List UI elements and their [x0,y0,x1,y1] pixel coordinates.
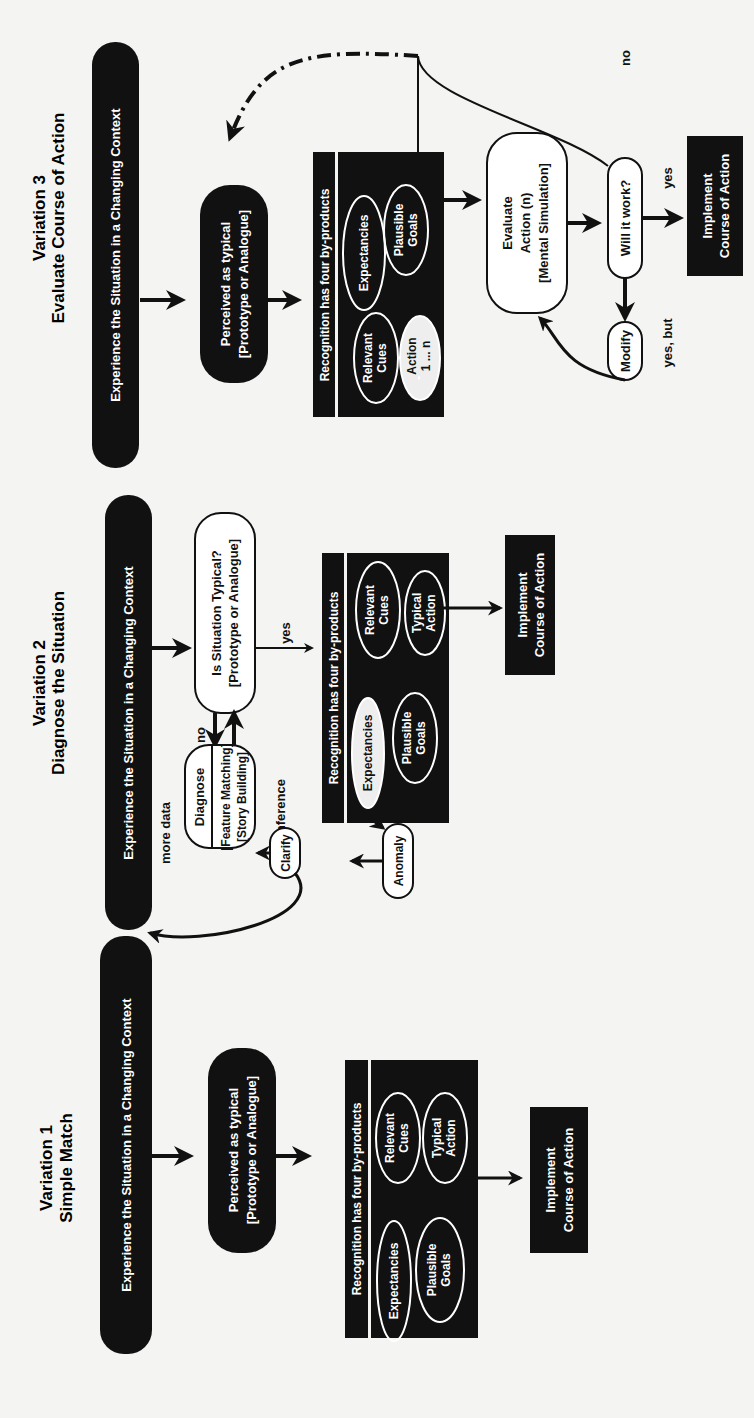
v1-recognition-header: Recognition has four by-products [350,1102,364,1295]
v1-perceived-line2: [Prototype or Analogue] [244,1076,259,1224]
v3-action-line2: 1 ... n [419,341,433,372]
v1-typical-action-line2: Action [444,1119,458,1156]
v2-diagnose-title: Diagnose [192,768,207,827]
variation-3: Variation 3 Evaluate Course of Action Ex… [30,42,743,468]
v1-implement-line2: Course of Action [561,1128,576,1232]
v2-typical-action-line1: Typical [410,593,424,633]
v2-yes-label: yes [278,622,293,644]
v1-relevant-cues-line1: Relevant [383,1113,397,1163]
v2-plausible-goals-line1: Plausible [400,711,414,764]
v2-plausible-goals-line2: Goals [414,721,428,755]
v2-decision-box [195,513,255,713]
v2-implement-box [505,535,555,675]
v3-evaluate-line3: [Mental Simulation] [536,163,551,283]
v3-implement-box [687,136,743,276]
v3-perceived-line2: [Prototype or Analogue] [236,210,251,358]
v3-perceived-pill [200,185,268,383]
v2-diagnose-line1: [Feature Matching] [219,743,233,850]
v2-no-label: no [193,727,208,743]
v3-no-label: no [618,50,633,66]
v2-implement-line1: Implement [515,572,530,638]
v3-perceived-line1: Perceived as typical [218,222,233,346]
variation-1: Variation 1 Simple Match Experience the … [37,936,588,1354]
v2-relevant-cues-line2: Cues [377,595,391,625]
v3-experience-label: Experience the Situation in a Changing C… [108,108,123,402]
v1-implement-line1: Implement [543,1147,558,1213]
v3-action-line1: Action [405,337,419,374]
v2-relevant-cues-line1: Relevant [363,585,377,635]
v2-clarify-label: Clarify [279,834,293,872]
v3-will-it-work-label: Will it work? [618,180,633,256]
variation-3-title: Variation 3 [30,175,49,261]
v2-arrow-clarify-experience [150,873,301,937]
v2-decision-line1: Is Situation Typical? [209,550,224,676]
v1-plausible-goals-line2: Goals [439,1253,453,1287]
v3-relevant-cues-line1: Relevant [361,333,375,383]
v3-modify-label: Modify [618,329,633,372]
v2-recognition-header: Recognition has four by-products [327,591,341,784]
variation-2: Variation 2 Diagnose the Situation Exper… [30,495,555,937]
variation-2-subtitle: Diagnose the Situation [49,591,68,775]
v3-expectancies-label: Expectancies [357,214,371,291]
v2-experience-label: Experience the Situation in a Changing C… [121,566,136,860]
v3-implement-line1: Implement [700,173,715,239]
v1-expectancies-label: Expectancies [387,1242,401,1319]
v3-evaluate-line1: Evaluate [500,196,515,249]
v1-implement-box [530,1107,588,1253]
v3-relevant-cues-line2: Cues [375,343,389,373]
variation-1-subtitle: Simple Match [57,1113,76,1223]
v1-typical-action-line1: Typical [430,1118,444,1158]
v3-yes-but-label: yes, but [660,318,675,368]
v2-more-data-label: more data [158,801,173,864]
v3-implement-line2: Course of Action [717,154,732,258]
v3-dashed-return-arrow [230,54,418,138]
v1-experience-label: Experience the Situation in a Changing C… [119,998,134,1292]
v1-plausible-goals-line1: Plausible [425,1243,439,1296]
v1-perceived-pill [208,1048,276,1253]
v3-evaluate-line2: Action (n) [518,193,533,254]
variation-2-title: Variation 2 [30,640,49,726]
rpd-model-figure: Variation 3 Evaluate Course of Action Ex… [0,0,754,1418]
v2-anomaly-label: Anomaly [392,835,406,886]
v2-typical-action-line2: Action [424,594,438,631]
v3-plausible-goals-line1: Plausible [392,203,406,256]
variation-1-title: Variation 1 [37,1125,56,1211]
v3-recognition-header: Recognition has four by-products [318,188,332,381]
v1-relevant-cues-line2: Cues [397,1123,411,1153]
v1-perceived-line1: Perceived as typical [226,1088,241,1212]
v2-implement-line2: Course of Action [532,553,547,657]
v3-yes-label: yes [660,167,675,189]
v2-diagnose-line2: [Story Building] [235,752,249,842]
v3-plausible-goals-line2: Goals [406,213,420,247]
v2-expectancies-label: Expectancies [361,714,375,791]
v2-decision-line2: [Prototype or Analogue] [226,539,241,687]
variation-3-subtitle: Evaluate Course of Action [49,113,68,324]
